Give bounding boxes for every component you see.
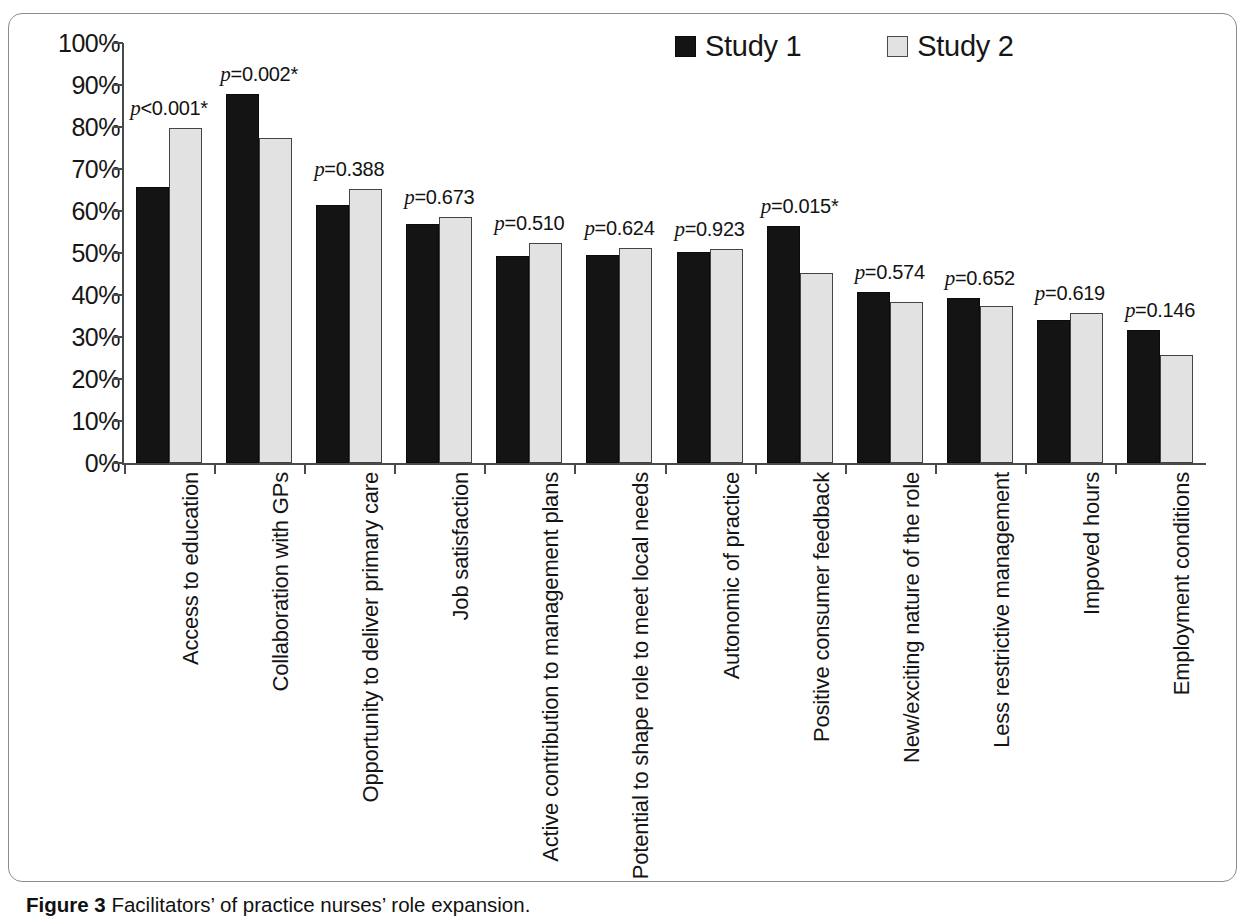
p-value-annotation: p=0.619 [1035, 281, 1105, 306]
x-axis-category-label: Active contribution to management plans [538, 472, 564, 862]
bar-study-1 [136, 187, 169, 463]
p-value-text: =0.652 [955, 267, 1015, 289]
bar-study-2 [890, 302, 923, 463]
p-symbol: p [314, 157, 324, 181]
bar-study-2 [169, 128, 202, 463]
y-axis-tick-mark [113, 336, 123, 338]
bar-study-2 [619, 248, 652, 463]
bar-chart: 100%90%80%70%60%50%40%30%20%10%0% p<0.00… [0, 0, 1247, 924]
bar-study-2 [529, 243, 562, 463]
y-axis-tick-labels: 100%90%80%70%60%50%40%30%20%10%0% [28, 0, 120, 924]
p-symbol: p [761, 194, 771, 218]
x-axis-tick-mark [484, 464, 486, 474]
p-value-text: =0.015* [771, 195, 838, 217]
bar-study-1 [1127, 330, 1160, 463]
bar-group [755, 43, 845, 463]
x-axis-category-label: Impoved hours [1079, 472, 1105, 615]
x-axis-category-label: Collaboration with GPs [268, 472, 294, 691]
x-axis-tick-mark [304, 464, 306, 474]
x-axis-category-label: Access to education [178, 472, 204, 665]
bar-study-2 [349, 189, 382, 463]
x-axis-tick-mark [935, 464, 937, 474]
x-axis-category-label: Less restrictive management [989, 472, 1015, 748]
p-value-annotation: p=0.146 [1125, 298, 1195, 323]
p-symbol: p [584, 216, 594, 240]
figure-caption-prefix: Figure 3 [26, 893, 106, 916]
p-symbol: p [945, 266, 955, 290]
bar-group [574, 43, 664, 463]
bar-study-1 [496, 256, 529, 463]
y-axis-tick-mark [113, 378, 123, 380]
chart-legend: Study 1Study 2 [675, 30, 1014, 63]
p-value-text: =0.388 [324, 158, 384, 180]
y-axis-tick-mark [113, 462, 123, 464]
figure-caption: Figure 3 Facilitators’ of practice nurse… [26, 893, 530, 917]
bar-study-1 [316, 205, 349, 463]
y-axis-tick-mark [113, 126, 123, 128]
bar-group [304, 43, 394, 463]
x-axis-tick-mark [755, 464, 757, 474]
outlined-square-icon [887, 36, 908, 57]
bar-study-1 [767, 226, 800, 463]
p-symbol: p [220, 62, 230, 86]
x-axis-tick-mark [124, 464, 126, 474]
bar-study-1 [586, 255, 619, 463]
bar-group [1115, 43, 1205, 463]
bar-study-2 [259, 138, 292, 463]
p-value-annotation: p=0.652 [945, 266, 1015, 291]
y-axis-tick-mark [113, 294, 123, 296]
bar-study-1 [857, 292, 890, 463]
p-symbol: p [855, 260, 865, 284]
bar-study-2 [710, 249, 743, 463]
bar-study-2 [1070, 313, 1103, 463]
p-value-text: =0.146 [1135, 299, 1195, 321]
p-value-annotation: p=0.388 [314, 157, 384, 182]
x-axis-category-label: Autonomic of practice [719, 472, 745, 679]
p-value-text: =0.624 [595, 217, 655, 239]
y-axis-tick-mark [113, 42, 123, 44]
x-axis-tick-mark [574, 464, 576, 474]
p-value-text: =0.619 [1045, 282, 1105, 304]
bar-study-2 [1160, 355, 1193, 463]
p-value-text: <0.001* [140, 97, 207, 119]
p-value-annotation: p=0.510 [494, 211, 564, 236]
legend-label: Study 2 [917, 30, 1013, 63]
bar-group [1025, 43, 1115, 463]
p-symbol: p [404, 185, 414, 209]
x-axis-category-label: Employment conditions [1169, 472, 1195, 695]
p-value-annotation: p=0.624 [584, 216, 654, 241]
p-value-annotation: p=0.574 [855, 260, 925, 285]
x-axis-category-label: Potential to shape role to meet local ne… [628, 472, 654, 879]
x-axis-tick-mark [1025, 464, 1027, 474]
bar-study-2 [800, 273, 833, 463]
p-value-annotation: p=0.002* [220, 62, 298, 87]
p-symbol: p [494, 211, 504, 235]
y-axis-tick-mark [113, 168, 123, 170]
bar-study-2 [439, 217, 472, 463]
p-value-text: =0.574 [865, 261, 925, 283]
y-axis-tick-mark [113, 210, 123, 212]
x-axis-tick-mark [214, 464, 216, 474]
legend-item: Study 2 [887, 30, 1013, 63]
p-symbol: p [130, 96, 140, 120]
p-value-text: =0.002* [231, 63, 298, 85]
p-symbol: p [1125, 298, 1135, 322]
y-axis-tick-label: 100% [58, 29, 120, 58]
x-axis-category-label: Job satisfaction [448, 472, 474, 620]
p-value-annotation: p<0.001* [130, 96, 208, 121]
bar-study-1 [406, 224, 439, 463]
x-axis-tick-mark [665, 464, 667, 474]
p-symbol: p [674, 217, 684, 241]
bar-group [214, 43, 304, 463]
x-axis-tick-mark [845, 464, 847, 474]
p-value-annotation: p=0.673 [404, 185, 474, 210]
x-axis-category-label: New/exciting nature of the role [899, 472, 925, 763]
bar-study-1 [1037, 320, 1070, 463]
bar-group [394, 43, 484, 463]
bar-group [935, 43, 1025, 463]
bar-study-1 [226, 94, 259, 463]
x-axis-category-label: Opportunity to deliver primary care [358, 472, 384, 802]
x-axis-tick-mark [1115, 464, 1117, 474]
plot-area: p<0.001*p=0.002*p=0.388p=0.673p=0.510p=0… [124, 43, 1205, 463]
y-axis-tick-mark [113, 84, 123, 86]
